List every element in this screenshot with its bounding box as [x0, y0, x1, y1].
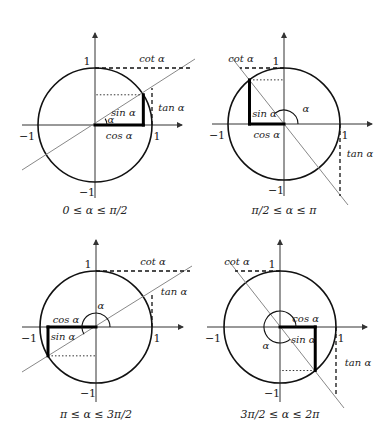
- label-sin: sin α: [51, 331, 76, 342]
- label-y-minus-one: −1: [268, 184, 284, 197]
- label-cot: cot α: [228, 53, 254, 64]
- label-y-one: 1: [84, 55, 91, 68]
- label-y-minus-one: −1: [80, 387, 96, 400]
- label-cos: cos α: [292, 313, 319, 324]
- label-sin: sin α: [252, 108, 277, 119]
- label-cot: cot α: [139, 53, 165, 64]
- label-tan: tan α: [161, 286, 188, 297]
- panel-caption: 3π/2 ≤ α ≤ 2π: [240, 408, 320, 421]
- trig-unit-circle-figure: 1−1−11cos αsin αtan αcot αα0 ≤ α ≤ π/21−…: [0, 0, 390, 441]
- label-y-one: 1: [273, 55, 280, 68]
- label-alpha: α: [98, 300, 105, 311]
- panel-caption: π ≤ α ≤ 3π/2: [59, 408, 132, 421]
- label-tan: tan α: [345, 357, 372, 368]
- label-cos: cos α: [106, 130, 133, 141]
- label-x-one: 1: [342, 129, 349, 142]
- angle-ray: [228, 260, 344, 408]
- label-y-minus-one: −1: [264, 387, 280, 400]
- label-cos: cos α: [253, 129, 280, 140]
- panel-q3: 1−1−11cos αsin αtan αcot ααπ ≤ α ≤ 3π/2: [21, 240, 192, 421]
- label-y-one: 1: [85, 258, 92, 271]
- panel-caption: 0 ≤ α ≤ π/2: [63, 204, 128, 217]
- label-x-one: 1: [154, 332, 161, 345]
- label-x-minus-one: −1: [19, 130, 35, 143]
- label-tan: tan α: [347, 148, 374, 159]
- label-alpha: α: [303, 103, 310, 114]
- label-x-minus-one: −1: [205, 332, 221, 345]
- label-tan: tan α: [158, 102, 185, 113]
- label-y-minus-one: −1: [79, 186, 95, 199]
- label-x-minus-one: −1: [209, 129, 225, 142]
- label-y-one: 1: [269, 258, 276, 271]
- label-alpha: α: [108, 114, 115, 125]
- label-cot: cot α: [140, 256, 166, 267]
- panel-caption: π/2 ≤ α ≤ π: [250, 204, 317, 217]
- panel-q2: 1−1−11cos αsin αtan αcot ααπ/2 ≤ α ≤ π: [209, 33, 374, 217]
- label-sin: sin α: [291, 334, 316, 345]
- label-x-one: 1: [154, 130, 161, 143]
- label-alpha: α: [263, 340, 270, 351]
- panel-q1: 1−1−11cos αsin αtan αcot αα0 ≤ α ≤ π/2: [19, 33, 195, 217]
- label-x-minus-one: −1: [21, 332, 37, 345]
- label-sin: sin α: [111, 107, 136, 118]
- label-cos: cos α: [53, 314, 80, 325]
- label-x-one: 1: [338, 332, 345, 345]
- panel-q4: 1−1−11cos αsin αtan αcot αα3π/2 ≤ α ≤ 2π: [205, 240, 372, 421]
- label-cot: cot α: [224, 256, 250, 267]
- figure-canvas: 1−1−11cos αsin αtan αcot αα0 ≤ α ≤ π/21−…: [0, 0, 390, 441]
